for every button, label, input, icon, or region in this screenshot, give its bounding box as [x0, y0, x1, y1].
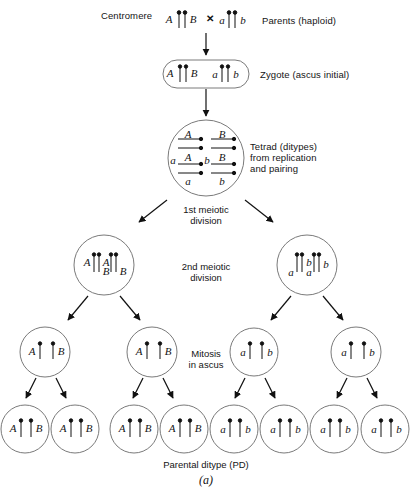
- ascospore-5-allele-a: a: [217, 423, 229, 435]
- zygote-label: Zygote (ascus initial): [260, 69, 349, 81]
- meiosis1-left-allele-B1: B: [100, 265, 112, 277]
- figure-canvas: Centromere A B ✕ a b Parents (haploid) A…: [0, 0, 413, 493]
- meiosis2-cell-3-allele-a: a: [237, 346, 249, 358]
- tetrad-label-B1: B: [216, 128, 228, 140]
- meiosis2-cell-2-chromosomes: [145, 342, 161, 359]
- ascospore-7-allele-b: b: [342, 423, 354, 435]
- ascospore-6-allele-a: a: [267, 423, 279, 435]
- ascospore-3-allele-B: B: [142, 422, 154, 434]
- parent-left-allele-B: B: [187, 13, 199, 25]
- zygote-allele-B: B: [188, 67, 200, 79]
- meiosis1-right-allele-b1: b: [303, 256, 315, 268]
- meiosis1-right-allele-b2: b: [320, 258, 332, 270]
- parents-label: Parents (haploid): [262, 15, 336, 27]
- parent-right-allele-b: b: [237, 14, 249, 26]
- tetrad-label-line1: Tetrad (ditypes): [250, 141, 317, 153]
- ascospore-1-allele-B: B: [33, 422, 45, 434]
- parent-left-allele-A: A: [163, 13, 175, 25]
- meiosis2-cell-3-chromosomes: [248, 342, 263, 359]
- meiosis2-cell-1-chromosomes: [38, 342, 54, 359]
- tetrad-label-a1: a: [167, 154, 179, 166]
- tetrad-label-A2: A: [182, 151, 194, 163]
- zygote-chromosomes: [178, 65, 229, 82]
- ascospore-5-allele-b: b: [242, 423, 254, 435]
- meiosis2-cell-4-chromosomes: [349, 342, 365, 359]
- ascospore-4-allele-A: A: [166, 422, 178, 434]
- tetrad-label-b2: b: [216, 175, 228, 187]
- ascospore-4-allele-B: B: [192, 422, 204, 434]
- meiosis2-cell-1-allele-B: B: [55, 345, 67, 357]
- ascospore-8-allele-a: a: [368, 423, 380, 435]
- tetrad-label-B2: B: [216, 151, 228, 163]
- tetrad-label-line2: from replication: [250, 152, 317, 164]
- ascospore-chromosomes: [19, 419, 392, 437]
- figure-letter: (a): [156, 473, 256, 488]
- meiosis2-cell-2-allele-A: A: [133, 345, 145, 357]
- diagram-artwork: [0, 0, 413, 493]
- tetrad-label-A1: A: [182, 128, 194, 140]
- arrows-mitosis-in-ascus: [26, 378, 377, 398]
- meiosis2-cell-4-allele-a: a: [338, 346, 350, 358]
- meiosis2-cell-4-allele-b: b: [366, 346, 378, 358]
- tetrad-label-line3: and pairing: [250, 163, 298, 175]
- ascospore-2-allele-A: A: [57, 422, 69, 434]
- meiosis1-right-allele-a1: a: [285, 266, 297, 278]
- cross-symbol: ✕: [203, 13, 217, 24]
- zygote-allele-A: A: [164, 67, 176, 79]
- mitosis-label-line2: in ascus: [178, 359, 234, 370]
- ascospore-7-allele-a: a: [317, 423, 329, 435]
- parent-right-allele-a: a: [216, 14, 228, 26]
- zygote-allele-b: b: [230, 68, 242, 80]
- tetrad-label-b1: b: [201, 154, 213, 166]
- meiosis1-left-allele-B2: B: [117, 265, 129, 277]
- first-division-label-line1: 1st meiotic: [166, 204, 246, 215]
- second-division-label-line2: division: [166, 272, 246, 283]
- meiosis2-cell-3-allele-b: b: [264, 346, 276, 358]
- ascospore-3-allele-A: A: [116, 422, 128, 434]
- ascospore-1-allele-A: A: [7, 422, 19, 434]
- tetrad-label-a2: a: [182, 175, 194, 187]
- centromere-label: Centromere: [101, 10, 152, 22]
- ascospore-2-allele-B: B: [83, 422, 95, 434]
- second-division-label-line1: 2nd meiotic: [166, 261, 246, 272]
- meiosis1-left-allele-A1: A: [81, 256, 93, 268]
- arrows-second-meiotic-division: [68, 296, 343, 320]
- meiosis2-cell-2-allele-B: B: [162, 345, 174, 357]
- ascospore-8-allele-b: b: [393, 423, 405, 435]
- zygote-allele-a: a: [209, 68, 221, 80]
- first-division-label-line2: division: [166, 215, 246, 226]
- meiosis2-cell-1-allele-A: A: [26, 345, 38, 357]
- ascospore-6-allele-b: b: [292, 423, 304, 435]
- mitosis-label-line1: Mitosis: [178, 348, 234, 359]
- parental-ditype-caption: Parental ditype (PD): [106, 459, 306, 470]
